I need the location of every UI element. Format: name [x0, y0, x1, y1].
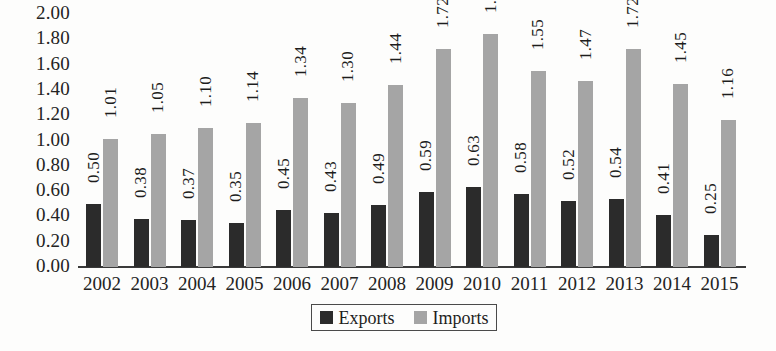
bar-rect — [134, 219, 149, 267]
bar-value-label: 1.10 — [197, 76, 214, 107]
bar-value-label: 0.50 — [85, 152, 102, 183]
bar-imports: 1.84 — [483, 14, 498, 267]
bar-rect — [656, 215, 671, 267]
bar-value-label: 1.47 — [577, 29, 594, 60]
bar-exports: 0.25 — [704, 14, 719, 267]
bar-value-label: 1.16 — [719, 68, 736, 99]
bar-group: 0.371.10 — [180, 14, 214, 267]
legend-swatch-imports-icon — [414, 311, 427, 324]
bar-imports: 1.14 — [246, 14, 261, 267]
bar-imports: 1.01 — [103, 14, 118, 267]
bar-rect — [276, 210, 291, 267]
bar-value-label: 0.45 — [275, 158, 292, 189]
y-axis-tick-label: 0.00 — [2, 256, 70, 275]
bar-imports: 1.45 — [673, 14, 688, 267]
bar-rect — [341, 103, 356, 267]
bar-value-label: 0.38 — [132, 167, 149, 198]
bar-value-label: 0.58 — [512, 142, 529, 173]
bar-imports: 1.34 — [293, 14, 308, 267]
bar-value-label: 1.72 — [434, 0, 451, 28]
bar-value-label: 1.55 — [529, 19, 546, 50]
bar-group: 0.591.72 — [418, 14, 452, 267]
y-axis-tick-label: 0.60 — [2, 180, 70, 199]
bar-rect — [561, 201, 576, 267]
bar-rect — [721, 120, 736, 267]
bar-group: 0.411.45 — [655, 14, 689, 267]
bar-group: 0.501.01 — [85, 14, 119, 267]
bar-group: 0.351.14 — [228, 14, 262, 267]
bar-rect — [531, 71, 546, 267]
bar-imports: 1.47 — [578, 14, 593, 267]
bar-rect — [436, 49, 451, 267]
bar-exports: 0.54 — [609, 14, 624, 267]
bar-rect — [103, 139, 118, 267]
y-axis-tick-label: 2.00 — [2, 3, 70, 22]
y-axis-tick-label: 1.60 — [2, 54, 70, 73]
bar-value-label: 1.44 — [387, 33, 404, 64]
bar-exports: 0.37 — [181, 14, 196, 267]
bar-value-label: 1.72 — [624, 0, 641, 28]
bar-value-label: 1.30 — [339, 51, 356, 82]
bar-rect — [293, 98, 308, 268]
bar-exports: 0.45 — [276, 14, 291, 267]
bar-group: 0.631.84 — [465, 14, 499, 267]
bar-rect — [86, 204, 101, 267]
bar-imports: 1.16 — [721, 14, 736, 267]
bar-value-label: 0.37 — [180, 168, 197, 199]
legend-label: Imports — [433, 309, 489, 327]
bar-rect — [371, 205, 386, 267]
plot-area: 0.501.010.381.050.371.100.351.140.451.34… — [80, 14, 745, 267]
bar-value-label: 0.43 — [322, 161, 339, 192]
bar-value-label: 1.05 — [149, 82, 166, 113]
bar-imports: 1.72 — [626, 14, 641, 267]
bar-imports: 1.72 — [436, 14, 451, 267]
x-axis-tick-label: 2015 — [692, 273, 748, 295]
bar-exports: 0.49 — [371, 14, 386, 267]
bar-exports: 0.50 — [86, 14, 101, 267]
bar-exports: 0.35 — [229, 14, 244, 267]
bar-exports: 0.41 — [656, 14, 671, 267]
bar-exports: 0.43 — [324, 14, 339, 267]
bar-rect — [419, 192, 434, 267]
bar-value-label: 0.59 — [417, 140, 434, 171]
bar-value-label: 0.63 — [465, 135, 482, 166]
y-axis-tick-label: 1.40 — [2, 79, 70, 98]
legend-item-imports[interactable]: Imports — [414, 309, 489, 327]
bar-rect — [151, 134, 166, 267]
bar-value-label: 1.84 — [482, 0, 499, 13]
bar-value-label: 0.49 — [370, 153, 387, 184]
y-axis: 2.001.801.601.401.201.000.800.600.400.20… — [0, 0, 78, 290]
bar-rect — [181, 220, 196, 267]
bar-rect — [324, 213, 339, 267]
bar-imports: 1.05 — [151, 14, 166, 267]
bar-imports: 1.44 — [388, 14, 403, 267]
bar-value-label: 1.34 — [292, 46, 309, 77]
bar-value-label: 0.25 — [702, 183, 719, 214]
bar-rect — [704, 235, 719, 267]
y-axis-tick-label: 0.40 — [2, 205, 70, 224]
bar-rect — [466, 187, 481, 267]
bar-exports: 0.58 — [514, 14, 529, 267]
bar-rect — [198, 128, 213, 267]
y-axis-tick-label: 0.80 — [2, 155, 70, 174]
bar-value-label: 1.45 — [672, 32, 689, 63]
bar-rect — [673, 84, 688, 267]
y-axis-tick-label: 0.20 — [2, 231, 70, 250]
bar-rect — [246, 123, 261, 267]
bar-group: 0.381.05 — [133, 14, 167, 267]
legend-item-exports[interactable]: Exports — [320, 309, 395, 327]
y-axis-tick-label: 1.20 — [2, 104, 70, 123]
bar-rect — [609, 199, 624, 267]
bar-imports: 1.30 — [341, 14, 356, 267]
bar-group: 0.251.16 — [703, 14, 737, 267]
bar-group: 0.451.34 — [275, 14, 309, 267]
bar-rect — [626, 49, 641, 267]
bar-value-label: 1.01 — [102, 87, 119, 118]
y-axis-tick-label: 1.80 — [2, 28, 70, 47]
bar-value-label: 1.14 — [244, 71, 261, 102]
bar-group: 0.541.72 — [608, 14, 642, 267]
bar-imports: 1.10 — [198, 14, 213, 267]
chart-legend: ExportsImports — [311, 304, 497, 331]
bar-rect — [578, 81, 593, 267]
legend-label: Exports — [339, 309, 395, 327]
